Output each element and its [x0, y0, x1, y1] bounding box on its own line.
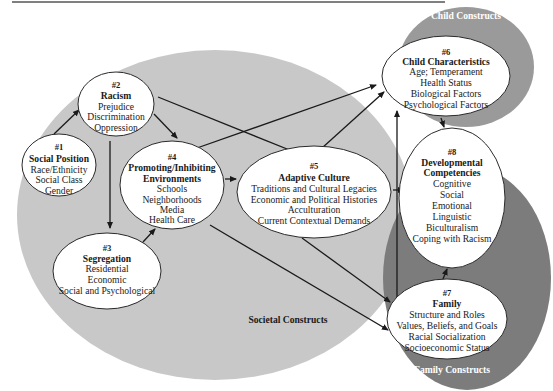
node-8-item: Cognitive: [433, 178, 471, 189]
node-4-item: Schools: [157, 183, 188, 194]
node-racism: #2 Racism Prejudice Discrimination Oppre…: [78, 72, 154, 136]
node-8-title-line2: Competencies: [423, 167, 480, 178]
node-5-title: Adaptive Culture: [278, 172, 350, 183]
node-8-item: Biculturalism: [426, 222, 479, 233]
node-3-number: #3: [103, 243, 112, 253]
child-constructs-label: Child Constructs: [431, 10, 501, 21]
node-8-item: Social: [440, 189, 464, 200]
node-2-title: Racism: [101, 90, 131, 101]
node-6-item: Age; Temperament: [409, 66, 483, 77]
node-3-item: Economic: [88, 274, 127, 285]
node-4-item: Health Care: [149, 214, 195, 225]
node-promoting-inhibiting-environments: #4 Promoting/Inhibiting Environments Sch…: [120, 141, 224, 229]
node-segregation: #3 Segregation Residential Economic Soci…: [53, 233, 161, 309]
node-family: #7 Family Structure and Roles Values, Be…: [387, 279, 507, 359]
node-8-item: Emotional: [432, 200, 472, 211]
node-5-item: Traditions and Cultural Legacies: [251, 183, 377, 194]
family-constructs-label: Family Constructs: [414, 364, 490, 375]
node-child-characteristics: #6 Child Characteristics Age; Temperamen…: [382, 36, 510, 116]
node-2-item: Discrimination: [87, 111, 145, 122]
societal-constructs-label: Societal Constructs: [248, 314, 327, 325]
node-developmental-competencies: #8 Developmental Competencies Cognitive …: [399, 128, 505, 268]
node-7-item: Values, Beliefs, and Goals: [397, 320, 498, 331]
node-3-item: Social and Psychological: [59, 285, 156, 296]
node-2-item: Oppression: [94, 122, 138, 133]
node-adaptive-culture: #5 Adaptive Culture Traditions and Cultu…: [237, 146, 391, 238]
node-7-item: Structure and Roles: [409, 309, 485, 320]
node-1-item: Social Class: [35, 174, 82, 185]
node-8-item: Coping with Racism: [413, 233, 492, 244]
ecological-model-diagram: Societal Constructs Child Constructs Fam…: [0, 0, 553, 391]
node-1-title: Social Position: [29, 153, 90, 164]
node-6-item: Biological Factors: [411, 88, 482, 99]
node-5-item: Current Contextual Demands: [258, 215, 371, 226]
node-8-number: #8: [448, 147, 457, 157]
node-3-item: Residential: [85, 263, 128, 274]
node-4-number: #4: [168, 152, 177, 162]
node-7-number: #7: [443, 288, 452, 298]
node-5-item: Acculturation: [288, 204, 341, 215]
node-6-item: Health Status: [420, 77, 472, 88]
node-7-item: Socioeconomic Status: [405, 342, 490, 353]
node-1-number: #1: [55, 142, 64, 152]
node-7-title: Family: [433, 298, 462, 309]
node-8-item: Linguistic: [433, 211, 472, 222]
node-2-number: #2: [112, 80, 121, 90]
node-social-position: #1 Social Position Race/Ethnicity Social…: [22, 134, 96, 196]
node-6-item: Psychological Factors: [404, 99, 489, 110]
node-7-item: Racial Socialization: [409, 331, 486, 342]
node-1-item: Gender: [45, 185, 74, 196]
node-4-title: Promoting/Inhibiting: [128, 162, 215, 173]
node-5-number: #5: [310, 161, 319, 171]
